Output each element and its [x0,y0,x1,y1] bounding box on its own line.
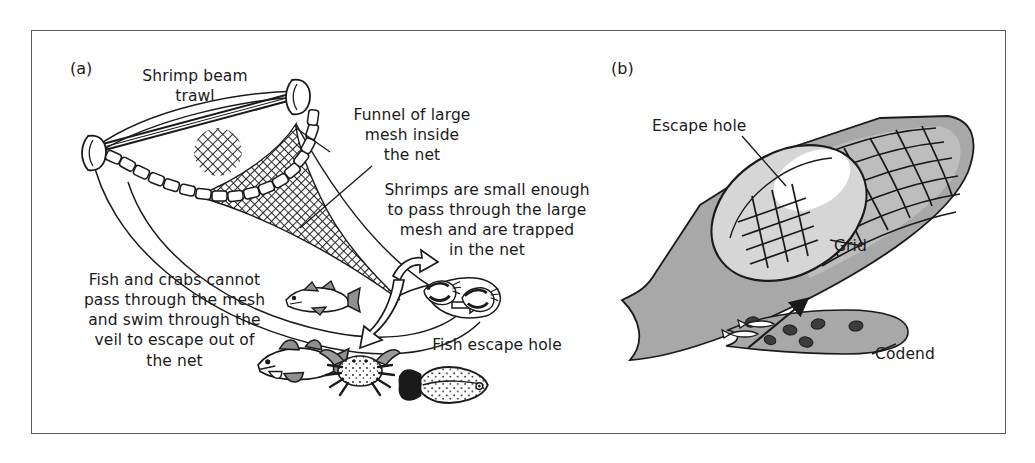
label-funnel-of-large-mesh: Funnel of large mesh inside the net [322,105,502,165]
label-grid: Grid [834,236,904,256]
label-fish-escape-hole: Fish escape hole [412,335,582,355]
panel-a-tag: (a) [70,59,92,78]
label-fish-and-crabs-cannot: Fish and crabs cannot pass through the m… [62,270,287,371]
label-codend: Codend [875,344,965,364]
label-escape-hole: Escape hole [652,116,787,136]
panel-b-tag: (b) [611,59,634,78]
figure-root: (a) Shrimp beam trawl Funnel of large me… [0,0,1035,463]
label-shrimp-beam-trawl: Shrimp beam trawl [110,66,280,106]
label-shrimps-small-enough: Shrimps are small enough to pass through… [372,180,602,261]
